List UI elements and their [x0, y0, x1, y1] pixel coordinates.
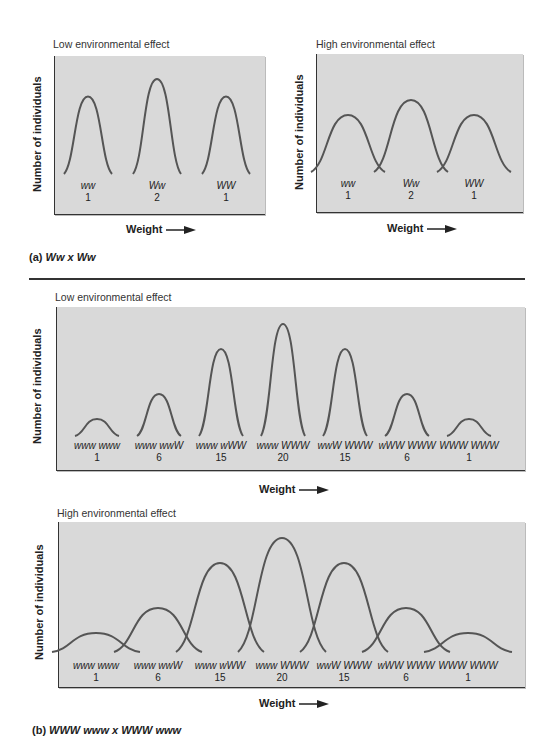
caption-b-cross: WWW www x WWW www: [49, 724, 181, 736]
b-high-ratio-label: 15: [214, 672, 225, 683]
b-high-curves: [0, 0, 555, 750]
b-high-ratio-label: 1: [465, 672, 471, 683]
b-high-genotype-label: wWW WWW: [377, 660, 434, 671]
b-high-ratio-label: 1: [93, 672, 99, 683]
b-high-ratio-label: 20: [276, 672, 287, 683]
b-high-ratio-label: 15: [338, 672, 349, 683]
b-high-genotype-label: www wWW: [195, 660, 246, 671]
b-high-genotype-label: WWW WWW: [438, 660, 497, 671]
b-high-curve-5: [300, 563, 388, 652]
b-high-genotype-label: www wwW: [134, 660, 182, 671]
caption-b-prefix: (b): [32, 724, 46, 736]
b-high-genotype-label: www www: [73, 660, 119, 671]
b-high-curve-4: [238, 538, 326, 652]
b-high-curve-3: [176, 563, 264, 652]
b-high-ratio-label: 6: [403, 672, 409, 683]
b-high-genotype-label: wwW WWW: [317, 660, 372, 671]
b-high-ratio-label: 6: [155, 672, 161, 683]
caption-b: (b) WWW www x WWW www: [32, 724, 181, 736]
b-high-genotype-label: www WWW: [256, 660, 309, 671]
